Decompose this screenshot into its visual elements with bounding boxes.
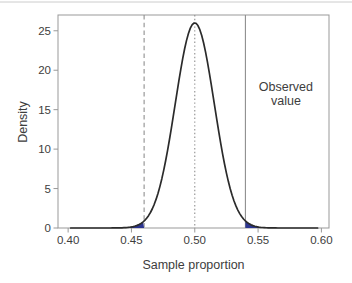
observed-value-label-line2: value [271, 94, 301, 108]
y-tick-label: 15 [38, 104, 51, 116]
y-axis-title: Density [16, 100, 30, 142]
observed-value-label-line1: Observed [259, 80, 313, 94]
reference-lines [144, 15, 245, 228]
axis-tick-labels: 0.400.450.500.550.600510152025 [38, 25, 332, 246]
x-tick-label: 0.40 [57, 234, 79, 246]
sampling-distribution-chart: 0.400.450.500.550.600510152025 Sample pr… [0, 0, 352, 283]
x-tick-label: 0.45 [120, 234, 142, 246]
y-tick-label: 5 [45, 183, 51, 195]
plot-border [58, 15, 329, 228]
y-tick-label: 20 [38, 64, 51, 76]
x-tick-label: 0.50 [184, 234, 206, 246]
x-tick-label: 0.60 [310, 234, 332, 246]
x-tick-label: 0.55 [247, 234, 269, 246]
density-curve [71, 23, 318, 228]
x-axis-title: Sample proportion [142, 258, 244, 272]
y-tick-label: 10 [38, 143, 51, 155]
y-tick-label: 0 [45, 222, 51, 234]
y-tick-label: 25 [38, 25, 51, 37]
density-plot-figure: 0.400.450.500.550.600510152025 Sample pr… [0, 0, 352, 283]
axis-ticks [54, 31, 322, 233]
